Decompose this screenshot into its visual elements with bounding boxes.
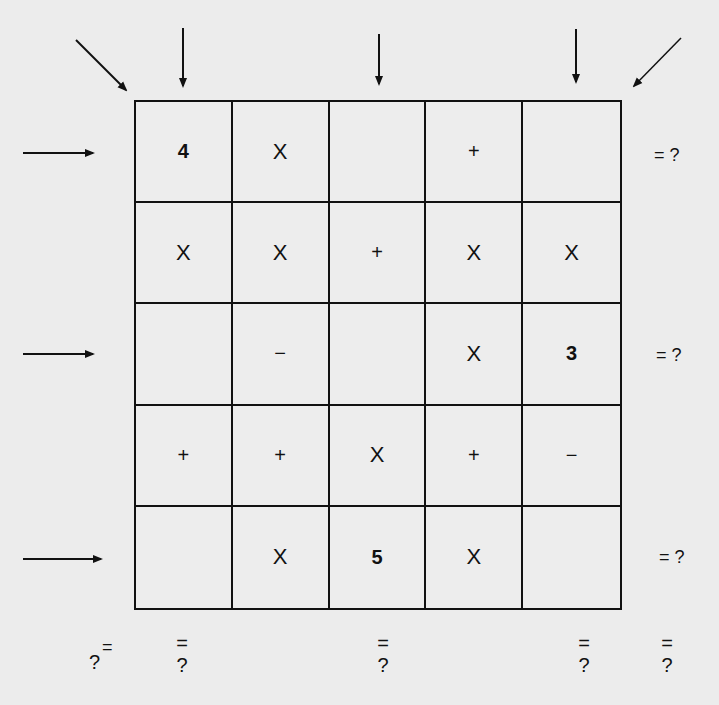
- diagonal-arrow-top-left: [76, 40, 126, 90]
- cell-r4-c2[interactable]: +: [233, 406, 330, 507]
- column-5-result: = ?: [572, 632, 596, 676]
- column-1-result: = ?: [170, 632, 194, 676]
- cell-r3-c5[interactable]: 3: [523, 304, 620, 405]
- cell-r1-c2[interactable]: X: [233, 102, 330, 203]
- diagonal-arrow-top-right: [634, 38, 681, 86]
- cell-r4-c1[interactable]: +: [136, 406, 233, 507]
- cell-r4-c4[interactable]: +: [426, 406, 523, 507]
- cell-r1-c1[interactable]: 4: [136, 102, 233, 203]
- row-1-result: = ?: [654, 145, 680, 166]
- cell-r5-c4[interactable]: X: [426, 507, 523, 608]
- cell-r2-c4[interactable]: X: [426, 203, 523, 304]
- row-5-result: = ?: [659, 547, 685, 568]
- puzzle-grid: 4 X + X X + X X − X 3 + + X + − X 5 X: [134, 100, 622, 610]
- cell-r1-c4[interactable]: +: [426, 102, 523, 203]
- cell-r3-c4[interactable]: X: [426, 304, 523, 405]
- cell-r5-c2[interactable]: X: [233, 507, 330, 608]
- cell-r3-c3[interactable]: [330, 304, 427, 405]
- diagonal-top-right-result: = ?: [655, 632, 679, 676]
- cell-r3-c2[interactable]: −: [233, 304, 330, 405]
- diagonal-top-left-result-q: ?: [89, 651, 100, 674]
- cell-r4-c5[interactable]: −: [523, 406, 620, 507]
- column-3-result: = ?: [371, 632, 395, 676]
- cell-r2-c2[interactable]: X: [233, 203, 330, 304]
- cell-r1-c3[interactable]: [330, 102, 427, 203]
- cell-r5-c5[interactable]: [523, 507, 620, 608]
- diagonal-top-left-result-eq: =: [102, 637, 113, 658]
- cell-r4-c3[interactable]: X: [330, 406, 427, 507]
- cell-r2-c1[interactable]: X: [136, 203, 233, 304]
- cell-r5-c1[interactable]: [136, 507, 233, 608]
- cell-r5-c3[interactable]: 5: [330, 507, 427, 608]
- cell-r2-c5[interactable]: X: [523, 203, 620, 304]
- row-3-result: = ?: [656, 345, 682, 366]
- cell-r2-c3[interactable]: +: [330, 203, 427, 304]
- cell-r1-c5[interactable]: [523, 102, 620, 203]
- cell-r3-c1[interactable]: [136, 304, 233, 405]
